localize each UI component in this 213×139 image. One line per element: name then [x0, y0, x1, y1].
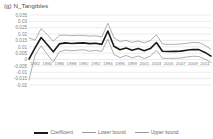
- x-axis-tick-label: 1996: [115, 61, 125, 66]
- y-axis-tick-label: -0.005: [14, 64, 27, 69]
- y-axis-tick-label: 0.015: [16, 38, 28, 43]
- x-axis-tick-label: 2003: [152, 61, 162, 66]
- x-axis-tick-label: 2007: [176, 61, 186, 66]
- series-line-upper-bound: [29, 23, 211, 49]
- y-axis-tick-label: 0.025: [16, 25, 28, 30]
- x-axis-tick-label: 1982: [30, 61, 40, 66]
- x-axis-tick-label: 1992: [91, 61, 101, 66]
- y-axis-tick-label: 0.03: [18, 19, 27, 24]
- legend-swatch-upper-bound-icon: [135, 132, 149, 133]
- x-axis-tick-label: 1999: [127, 61, 137, 66]
- x-axis-tick-label: 1986: [54, 61, 64, 66]
- y-axis-tick-label: 0.035: [16, 13, 28, 18]
- legend-item-coefficient: Coefficient: [34, 130, 73, 135]
- legend-label-coefficient: Coefficient: [50, 130, 73, 135]
- series-lines: [29, 23, 211, 80]
- y-axis-tick-label: -0.015: [14, 76, 27, 81]
- y-axis-tick-label: -0.02: [17, 83, 28, 88]
- series-line-coefficient: [29, 31, 211, 59]
- legend-label-lower-bound: Lower bound: [98, 130, 126, 135]
- x-axis-tick-label: 1984: [42, 61, 52, 66]
- x-axis-tick-label: 1994: [103, 61, 113, 66]
- x-axis-tick-label: 2009: [188, 61, 198, 66]
- legend-item-lower-bound: Lower bound: [82, 130, 126, 135]
- legend-item-upper-bound: Upper bound: [135, 130, 179, 135]
- x-axis-tick-label: 2005: [164, 61, 174, 66]
- y-axis-tick-label: 0.02: [18, 32, 27, 37]
- x-axis-tick-label: 2001: [139, 61, 149, 66]
- legend-swatch-lower-bound-icon: [82, 132, 96, 133]
- x-axis-tick-label: 1988: [67, 61, 77, 66]
- plot-area: 0.0350.030.0250.020.0150.010.0050-0.005-…: [0, 13, 213, 123]
- x-axis-tick-label: 1990: [79, 61, 89, 66]
- chart-title: (g) N_Tangibles: [4, 2, 48, 9]
- y-axis-tick-label: -0.01: [17, 70, 28, 75]
- chart-container: (g) N_Tangibles 0.0350.030.0250.020.0150…: [0, 0, 213, 139]
- y-axis-tick-label: 0.005: [16, 51, 28, 56]
- y-axis-tick-label: 0: [24, 57, 27, 62]
- y-axis-tick-label: 0.01: [18, 45, 27, 50]
- legend-label-upper-bound: Upper bound: [151, 130, 179, 135]
- x-axis-tick-labels: 1982198419861988199019921994199619992001…: [30, 61, 210, 66]
- legend-swatch-coefficient-icon: [34, 132, 48, 134]
- chart-legend: Coefficient Lower bound Upper bound: [0, 126, 213, 139]
- chart-svg: 0.0350.030.0250.020.0150.010.0050-0.005-…: [0, 13, 213, 123]
- y-axis-tick-labels: 0.0350.030.0250.020.0150.010.0050-0.005-…: [14, 13, 27, 88]
